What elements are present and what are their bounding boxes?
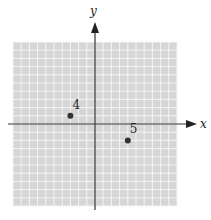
- point-4: [67, 113, 73, 119]
- x-axis-arrow-icon: [186, 120, 197, 128]
- point-label: 5: [130, 122, 138, 136]
- point-5: [125, 137, 131, 143]
- coordinate-plane: [0, 0, 211, 220]
- y-axis-label: y: [90, 4, 97, 18]
- y-axis-arrow-icon: [91, 22, 99, 33]
- point-label: 4: [72, 98, 80, 112]
- x-axis-label: x: [200, 117, 207, 131]
